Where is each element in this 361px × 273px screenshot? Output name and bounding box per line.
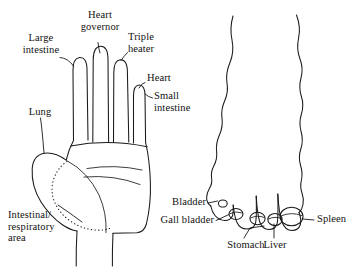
foot-drawing <box>207 15 304 231</box>
hand-outline-radial <box>66 141 73 161</box>
label-triple-heater: Triple heater <box>114 31 168 54</box>
hand-knuckle-line <box>71 143 147 147</box>
leader-spleen <box>303 219 315 220</box>
hand-finger-ring <box>114 60 129 143</box>
foot-pad-arc-gall-bladder <box>230 212 242 214</box>
hand-leader-lines <box>41 43 153 223</box>
hand-wrist-right <box>112 233 113 266</box>
label-heart: Heart <box>147 72 193 84</box>
label-spleen: Spleen <box>317 213 361 225</box>
foot-pad-arc-liver <box>268 217 281 219</box>
foot-reflex-circle-bladder <box>218 200 227 207</box>
leader-heart-governor <box>98 43 100 54</box>
hand-finger-middle <box>93 46 109 142</box>
label-heart-governor: Heart governor <box>64 9 136 32</box>
label-intestinal-respiratory-area: Intestinal/ respiratory area <box>8 209 86 244</box>
leader-bladder <box>208 201 218 203</box>
reflexology-figure: Large intestine Heart governor Triple he… <box>0 0 361 273</box>
foot-pad-arc-spleen <box>281 214 302 216</box>
foot-pad-arc-stomach <box>251 216 265 218</box>
label-liver: Liver <box>258 239 292 251</box>
hand-finger-little <box>134 85 146 143</box>
label-large-intestine: Large intestine <box>10 32 72 55</box>
label-small-intestine: Small intestine <box>154 90 216 113</box>
label-gall-bladder: Gall bladder <box>138 214 214 226</box>
hand-palm-crease-upper <box>87 167 142 170</box>
label-bladder: Bladder <box>150 196 206 208</box>
foot-reflex-circle-spleen <box>280 207 303 225</box>
leader-small-intestine <box>145 94 152 98</box>
label-lung: Lung <box>16 106 64 118</box>
leader-lung <box>41 118 45 153</box>
leader-stomach <box>244 226 264 238</box>
foot-reflex-circle-gall-bladder <box>229 208 243 219</box>
leader-gall-bladder <box>216 215 229 221</box>
foot-outline-lateral <box>297 15 304 213</box>
hand-finger-index <box>73 58 88 141</box>
leader-large-intestine <box>60 58 74 67</box>
